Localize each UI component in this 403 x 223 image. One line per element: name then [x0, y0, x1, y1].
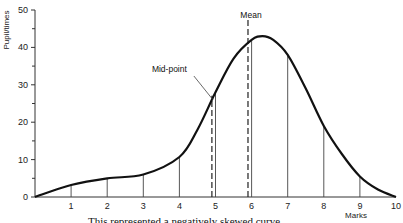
vertical-lines: [71, 20, 360, 197]
x-tick-label: 5: [213, 201, 218, 211]
x-tick-label: 3: [141, 201, 146, 211]
x-tick-label: 10: [391, 201, 401, 211]
labels: 0102030405012345678910MeanMid-point: [18, 5, 401, 211]
y-tick-label: 40: [18, 42, 28, 52]
x-tick-label: 6: [249, 201, 254, 211]
x-tick-label: 8: [321, 201, 326, 211]
x-tick-label: 2: [105, 201, 110, 211]
x-tick-label: 1: [69, 201, 74, 211]
axes: [31, 10, 396, 197]
skewed-distribution-chart: 0102030405012345678910MeanMid-point Pupi…: [0, 0, 403, 223]
x-tick-label: 9: [357, 201, 362, 211]
mid-point-leader: [194, 76, 213, 100]
y-tick-label: 20: [18, 117, 28, 127]
mean-label: Mean: [240, 10, 262, 20]
y-tick-label: 0: [23, 192, 28, 202]
y-tick-label: 50: [18, 5, 28, 15]
mid-point-label: Mid-point: [152, 64, 188, 74]
x-axis-title: Marks: [345, 211, 367, 220]
caption: This represented a negatively skewed cur…: [88, 215, 280, 223]
x-tick-label: 4: [177, 201, 182, 211]
x-tick-label: 7: [285, 201, 290, 211]
y-axis-title: Pupil/times: [2, 10, 11, 49]
y-tick-label: 10: [18, 155, 28, 165]
y-tick-label: 30: [18, 80, 28, 90]
